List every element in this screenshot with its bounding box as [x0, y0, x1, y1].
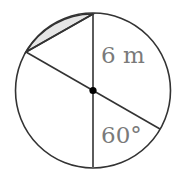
chord [26, 14, 93, 52]
circle-diagram: 6 m 60° [0, 0, 184, 177]
center-point [89, 87, 96, 94]
angle-label: 60° [101, 122, 142, 148]
radius-label: 6 m [101, 42, 145, 68]
